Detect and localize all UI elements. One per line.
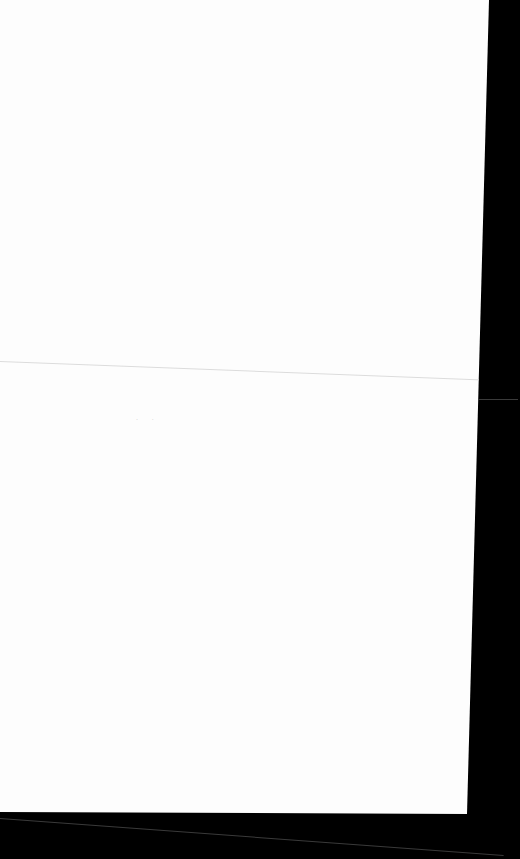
paper-specks: · · [136, 416, 160, 422]
fold-line [0, 361, 520, 382]
background-edge-line-right [478, 399, 518, 400]
background-edge-line [0, 818, 504, 856]
